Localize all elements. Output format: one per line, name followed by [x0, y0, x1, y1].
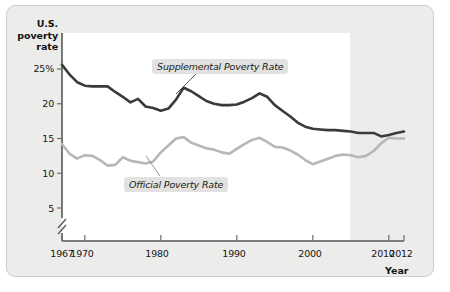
- chart-canvas: [0, 0, 450, 292]
- leader-line-official: [146, 156, 160, 176]
- series-line-supplemental-poverty-rate: [62, 65, 404, 137]
- axes-group: [58, 33, 404, 241]
- chart-figure: U.S. poverty rate 25% 20 15 10 5 1967 19…: [0, 0, 450, 292]
- series-lines: [62, 65, 404, 166]
- series-line-official-poverty-rate: [62, 137, 404, 166]
- axis-break-icon: [58, 219, 66, 234]
